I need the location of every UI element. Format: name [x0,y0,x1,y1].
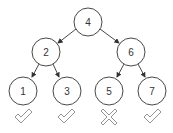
node-label: 7 [149,86,155,97]
node-1: 1 [9,77,37,105]
edge-2-1 [32,64,39,77]
edge-4-2 [58,29,76,43]
check-icon [15,109,32,123]
node-label: 6 [128,47,134,58]
node-label: 3 [64,86,70,97]
check-icon [58,109,75,123]
marks [15,109,161,125]
node-5: 5 [95,77,123,105]
nodes: 4 2 6 1 3 5 7 [9,8,166,105]
edge-4-6 [100,29,119,43]
node-label: 1 [20,86,26,97]
edge-6-7 [138,64,145,77]
node-label: 5 [106,86,112,97]
check-icon [144,109,161,123]
node-label: 2 [43,47,49,58]
node-2: 2 [32,38,60,66]
node-3: 3 [53,77,81,105]
tree-diagram: 4 2 6 1 3 5 7 [0,0,173,133]
node-label: 4 [85,17,91,28]
node-7: 7 [138,77,166,105]
node-6: 6 [117,38,145,66]
edge-2-3 [53,64,59,77]
edge-6-5 [117,64,124,77]
node-4: 4 [74,8,102,36]
cross-icon [101,109,117,125]
